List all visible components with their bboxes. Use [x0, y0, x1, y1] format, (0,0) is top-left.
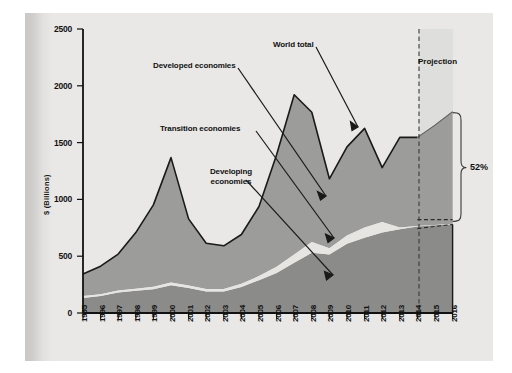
x-tick-2000: 2000: [168, 305, 177, 322]
fdi-area-chart: $ (Billions) 2500 2000 1500 1000 500 0 1…: [0, 0, 512, 373]
x-tick-1998: 1998: [133, 305, 142, 322]
growth-percentage-label: 52%: [470, 162, 488, 172]
x-tick-2004: 2004: [238, 305, 247, 322]
annotation-transition-economies: Transition economies: [160, 124, 240, 134]
x-tick-2015: 2015: [432, 305, 441, 322]
projection-label: Projection: [418, 57, 457, 66]
y-tick-0: 0: [44, 308, 72, 318]
growth-bracket: [453, 113, 466, 222]
annotation-world-total: World total: [273, 40, 314, 50]
y-tick-1000: 1000: [44, 194, 72, 204]
annotation-developing-line1: Developing: [210, 167, 252, 176]
x-tick-2016: 2016: [450, 305, 459, 322]
x-tick-1997: 1997: [115, 305, 124, 322]
x-tick-2005: 2005: [256, 305, 265, 322]
annotation-developing-economies: Developing economies: [200, 167, 262, 187]
y-tick-2000: 2000: [44, 81, 72, 91]
x-tick-2006: 2006: [274, 305, 283, 322]
x-tick-2003: 2003: [221, 305, 230, 322]
x-tick-2013: 2013: [397, 305, 406, 322]
x-tick-1996: 1996: [98, 305, 107, 322]
x-tick-2007: 2007: [291, 305, 300, 322]
x-tick-2001: 2001: [186, 305, 195, 322]
y-tick-2500: 2500: [44, 24, 72, 34]
x-tick-2008: 2008: [309, 305, 318, 322]
y-tick-1500: 1500: [44, 138, 72, 148]
y-tick-500: 500: [44, 251, 72, 261]
x-tick-2011: 2011: [362, 305, 371, 322]
annotation-developing-line2: economies: [211, 177, 252, 186]
x-tick-1995: 1995: [80, 305, 89, 322]
x-tick-2010: 2010: [344, 305, 353, 322]
annotation-developed-economies: Developed economies: [153, 61, 236, 71]
x-tick-2012: 2012: [379, 305, 388, 322]
x-tick-2014: 2014: [414, 305, 423, 322]
x-tick-2009: 2009: [326, 305, 335, 322]
x-tick-2002: 2002: [203, 305, 212, 322]
x-tick-1999: 1999: [150, 305, 159, 322]
